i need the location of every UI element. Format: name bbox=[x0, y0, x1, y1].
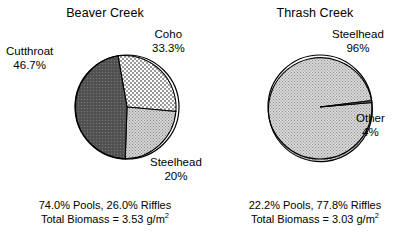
slice-label-other: Other 4% bbox=[356, 112, 385, 139]
pie-chart-figure: Beaver Creek bbox=[0, 0, 420, 238]
slice-label-cutthroat-pct: 46.7% bbox=[6, 59, 53, 73]
pie-slice-cutthroat bbox=[75, 56, 127, 159]
slice-label-cutthroat-name: Cutthroat bbox=[6, 45, 53, 57]
slice-label-other-pct: 4% bbox=[356, 126, 385, 140]
slice-label-coho-pct: 33.3% bbox=[152, 42, 185, 56]
pie-slice-steelhead-beaver bbox=[125, 107, 176, 159]
slice-label-cutthroat: Cutthroat 46.7% bbox=[6, 45, 53, 72]
footnote-beaver-biomass: Total Biomass = 3.53 g/m2 bbox=[0, 212, 210, 226]
footnote-thrash-habitat: 22.2% Pools, 77.8% Riffles bbox=[210, 198, 420, 212]
panel-thrash-creek: Thrash Creek bbox=[210, 0, 420, 238]
slice-label-steelhead-thrash: Steelhead 96% bbox=[332, 28, 384, 55]
slice-label-steelhead-beaver-name: Steelhead bbox=[150, 156, 202, 168]
slice-label-other-name: Other bbox=[356, 112, 385, 124]
footnote-beaver-biomass-text: Total Biomass = 3.53 g/m bbox=[41, 213, 165, 225]
slice-label-coho: Coho 33.3% bbox=[152, 28, 185, 55]
footnote-thrash-biomass: Total Biomass = 3.03 g/m2 bbox=[210, 212, 420, 226]
footnote-beaver-biomass-exponent: 2 bbox=[165, 211, 169, 220]
footnote-thrash-biomass-exponent: 2 bbox=[375, 211, 379, 220]
panel-beaver-creek: Beaver Creek bbox=[0, 0, 210, 238]
footnote-beaver-habitat: 74.0% Pools, 26.0% Riffles bbox=[0, 198, 210, 212]
pie-slice-steelhead-thrash bbox=[268, 58, 372, 162]
footnote-beaver-creek: 74.0% Pools, 26.0% Riffles Total Biomass… bbox=[0, 198, 210, 226]
slice-label-steelhead-thrash-name: Steelhead bbox=[332, 28, 384, 40]
slice-label-steelhead-beaver-pct: 20% bbox=[150, 170, 202, 184]
slice-label-steelhead-thrash-pct: 96% bbox=[332, 42, 384, 56]
footnote-thrash-creek: 22.2% Pools, 77.8% Riffles Total Biomass… bbox=[210, 198, 420, 226]
footnote-thrash-biomass-text: Total Biomass = 3.03 g/m bbox=[251, 213, 375, 225]
slice-label-coho-name: Coho bbox=[155, 28, 183, 40]
slice-label-steelhead-beaver: Steelhead 20% bbox=[150, 156, 202, 183]
